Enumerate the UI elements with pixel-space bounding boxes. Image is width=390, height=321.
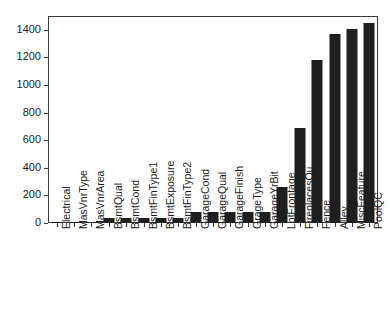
x-axis-tick-label: BsmtFinType2 xyxy=(182,162,193,229)
x-axis-tick-label: GarageFinish xyxy=(234,166,245,229)
x-axis-tick-label: GarageCond xyxy=(200,169,211,229)
y-axis-tick-label: 200 xyxy=(23,188,41,201)
x-axis-tick-mark xyxy=(369,223,370,227)
x-axis-tick-mark xyxy=(109,223,110,227)
bar-slot xyxy=(326,16,343,223)
x-axis-labels: ElectricalMasVnrTypeMasVnrAreaBsmtQualBs… xyxy=(48,229,378,321)
x-axis-tick-mark xyxy=(196,223,197,227)
x-axis-tick-mark xyxy=(91,223,92,227)
x-axis-tick-mark xyxy=(178,223,179,227)
x-axis-tick-mark xyxy=(230,223,231,227)
x-axis-tick-label: BsmtExposure xyxy=(165,161,176,229)
x-axis-tick-label: MasVnrArea xyxy=(95,171,106,229)
x-axis-tick-mark xyxy=(300,223,301,227)
x-axis-tick-label: LotFrontage xyxy=(286,172,297,229)
x-axis-tick-label: Alley xyxy=(339,206,350,229)
x-axis-tick-mark xyxy=(161,223,162,227)
x-axis-tick-label: GarageQual xyxy=(217,172,228,229)
y-axis-tick-label: 400 xyxy=(23,161,41,174)
y-axis-tick-label: 1200 xyxy=(17,50,41,63)
y-axis-tick-label: 1400 xyxy=(17,23,41,36)
x-axis-tick-mark xyxy=(248,223,249,227)
x-axis-tick-mark xyxy=(352,223,353,227)
x-axis-tick-label: GarageYrBit xyxy=(269,171,280,229)
bar xyxy=(329,34,340,223)
y-axis-tick-label: 800 xyxy=(23,106,41,119)
x-axis-tick-mark xyxy=(335,223,336,227)
y-axis: 0200400600800100012001400 xyxy=(0,16,48,223)
x-axis-tick-mark xyxy=(265,223,266,227)
y-axis-tick-label: 600 xyxy=(23,133,41,146)
x-axis-tick-mark xyxy=(282,223,283,227)
x-axis-tick-label: Electrical xyxy=(61,186,72,229)
x-axis-tick-label: BsmtCond xyxy=(130,180,141,229)
x-axis-tick-label: Fence xyxy=(321,200,332,229)
y-axis-tick-label: 0 xyxy=(35,216,41,229)
x-axis-tick-label: GrageType xyxy=(252,177,263,229)
x-axis-tick-mark xyxy=(317,223,318,227)
x-axis-tick-mark xyxy=(144,223,145,227)
x-axis-tick-label: MasVnrType xyxy=(78,170,89,229)
y-axis-tick-label: 1000 xyxy=(17,78,41,91)
x-axis-tick-mark xyxy=(57,223,58,227)
x-axis-tick-label: MiscFeature xyxy=(356,171,367,229)
x-axis-tick-mark xyxy=(126,223,127,227)
x-axis-tick-mark xyxy=(213,223,214,227)
x-axis-tick-label: PoolQC xyxy=(373,192,384,229)
missing-values-bar-chart: 0200400600800100012001400 ElectricalMasV… xyxy=(0,0,390,321)
x-axis-tick-label: BsmtFinType1 xyxy=(148,162,159,229)
x-axis-tick-mark xyxy=(74,223,75,227)
x-axis-tick-label: FireplacesQu xyxy=(304,167,315,229)
x-axis-tick-label: BsmtQual xyxy=(113,183,124,229)
